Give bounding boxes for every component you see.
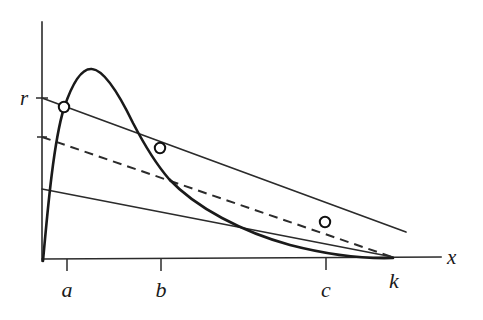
tick-label-c: c [321, 277, 331, 302]
intersection-marker-c [320, 217, 330, 227]
harvest-line-upper [42, 98, 406, 232]
tick-label-a: a [62, 277, 73, 302]
harvest-line-lower [42, 189, 393, 257]
growth-harvest-plot: r x a b c k [0, 0, 483, 320]
intersection-marker-b [155, 143, 165, 153]
harvest-line-dashed [42, 137, 392, 257]
figure-root: r x a b c k [0, 0, 483, 320]
x-axis-label: x [446, 245, 457, 269]
tick-label-b: b [156, 277, 167, 302]
intersection-marker-a [59, 102, 69, 112]
tick-label-k: k [389, 268, 400, 293]
y-axis-label: r [20, 86, 29, 110]
logistic-growth-curve [43, 69, 393, 261]
